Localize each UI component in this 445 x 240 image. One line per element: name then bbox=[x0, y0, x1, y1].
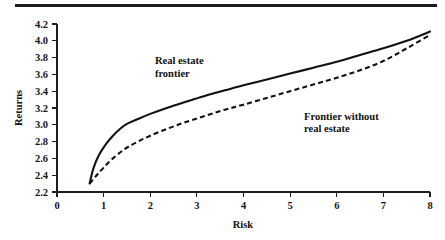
x-tick-label: 1 bbox=[101, 200, 106, 211]
series-line-frontier-without-real-estate bbox=[90, 35, 430, 184]
x-tick-label: 4 bbox=[241, 200, 247, 211]
y-tick-label: 2.4 bbox=[35, 170, 49, 181]
x-axis-ticks bbox=[57, 192, 430, 197]
y-tick-label: 4.2 bbox=[35, 19, 48, 30]
series-line-real-estate-frontier bbox=[90, 32, 430, 184]
x-tick-label: 7 bbox=[381, 200, 386, 211]
y-axis-title: Returns bbox=[13, 90, 24, 126]
y-axis-ticks bbox=[52, 24, 57, 192]
x-tick-label: 3 bbox=[194, 200, 199, 211]
x-axis-title: Risk bbox=[233, 219, 254, 230]
y-tick-label: 3.4 bbox=[35, 86, 49, 97]
figure-container: 2.22.42.62.83.03.23.43.63.84.04.2 012345… bbox=[0, 0, 445, 240]
y-tick-label: 2.6 bbox=[35, 153, 48, 164]
y-tick-label: 4.0 bbox=[35, 35, 48, 46]
x-tick-label: 8 bbox=[427, 200, 432, 211]
x-axis-tick-labels: 012345678 bbox=[54, 200, 432, 211]
y-tick-label: 3.8 bbox=[35, 52, 48, 63]
y-axis-tick-labels: 2.22.42.62.83.03.23.43.63.84.04.2 bbox=[35, 19, 49, 198]
y-tick-label: 2.8 bbox=[35, 136, 48, 147]
x-tick-label: 5 bbox=[288, 200, 293, 211]
y-tick-label: 3.0 bbox=[35, 119, 48, 130]
x-tick-label: 2 bbox=[148, 200, 153, 211]
efficient-frontier-chart: 2.22.42.62.83.03.23.43.63.84.04.2 012345… bbox=[0, 0, 445, 240]
chart-annotations: Real estatefrontierFrontier withoutreal … bbox=[155, 55, 379, 134]
annotation-real-estate-frontier: Real estatefrontier bbox=[155, 55, 204, 79]
x-tick-label: 6 bbox=[334, 200, 339, 211]
annotation-frontier-without-real-estate: Frontier withoutreal estate bbox=[304, 111, 379, 135]
y-tick-label: 2.2 bbox=[35, 187, 48, 198]
y-tick-label: 3.2 bbox=[35, 103, 48, 114]
x-tick-label: 0 bbox=[54, 200, 59, 211]
y-tick-label: 3.6 bbox=[35, 69, 48, 80]
